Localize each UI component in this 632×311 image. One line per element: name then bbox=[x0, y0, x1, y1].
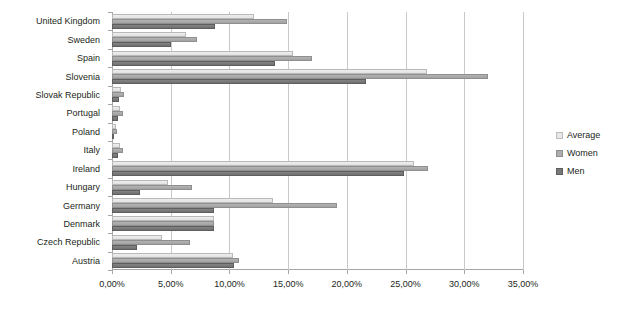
bar-men bbox=[112, 153, 118, 158]
bar-men bbox=[112, 42, 171, 47]
bar-group bbox=[112, 67, 523, 85]
y-axis-category-label: Italy bbox=[83, 145, 100, 155]
y-axis-category-label: Sweden bbox=[67, 35, 100, 45]
bar-men bbox=[112, 97, 119, 102]
x-axis-tick bbox=[464, 270, 465, 274]
bar-group bbox=[112, 178, 523, 196]
bar-men bbox=[112, 245, 137, 250]
x-axis-labels: 0,00%5,00%10,00%15,00%20,00%25,00%30,00%… bbox=[0, 278, 632, 294]
x-axis-tick bbox=[112, 270, 113, 274]
legend-item[interactable]: Women bbox=[556, 144, 630, 162]
bar-men bbox=[112, 263, 234, 268]
legend-item[interactable]: Average bbox=[556, 126, 630, 144]
bar-rows bbox=[112, 12, 523, 270]
y-axis-category-label: Hungary bbox=[66, 182, 100, 192]
bar-group bbox=[112, 104, 523, 122]
x-axis-tick-label: 30,00% bbox=[449, 278, 480, 290]
y-axis-category-label: United Kingdom bbox=[36, 16, 100, 26]
x-axis-tick bbox=[229, 270, 230, 274]
bar-chart: United KingdomSwedenSpainSloveniaSlovak … bbox=[0, 0, 632, 311]
y-axis-category-label: Spain bbox=[77, 53, 100, 63]
bar-men bbox=[112, 171, 404, 176]
bar-group bbox=[112, 12, 523, 30]
x-axis-tick-label: 10,00% bbox=[214, 278, 245, 290]
legend-item[interactable]: Men bbox=[556, 162, 630, 180]
y-axis-labels: United KingdomSwedenSpainSloveniaSlovak … bbox=[0, 12, 106, 270]
plot-area bbox=[112, 12, 523, 270]
legend-label: Men bbox=[567, 166, 585, 176]
bar-group bbox=[112, 233, 523, 251]
bar-group bbox=[112, 86, 523, 104]
x-axis-tick bbox=[523, 270, 524, 274]
y-axis-category-label: Slovenia bbox=[65, 72, 100, 82]
bar-men bbox=[112, 116, 118, 121]
bar-group bbox=[112, 49, 523, 67]
legend-label: Women bbox=[567, 148, 598, 158]
bar-men bbox=[112, 190, 140, 195]
x-axis-tick bbox=[406, 270, 407, 274]
x-axis-tick-label: 5,00% bbox=[158, 278, 184, 290]
bar-men bbox=[112, 208, 214, 213]
bar-group bbox=[112, 159, 523, 177]
y-axis-category-label: Germany bbox=[63, 201, 100, 211]
bar-group bbox=[112, 215, 523, 233]
bar-men bbox=[112, 24, 215, 29]
bar-group bbox=[112, 30, 523, 48]
gridline bbox=[523, 12, 524, 270]
y-axis-category-label: Austria bbox=[72, 256, 100, 266]
y-axis-category-label: Poland bbox=[72, 127, 100, 137]
y-axis-category-label: Ireland bbox=[72, 164, 100, 174]
bar-men bbox=[112, 79, 366, 84]
bar-men bbox=[112, 61, 275, 66]
y-axis-category-label: Slovak Republic bbox=[35, 90, 100, 100]
bar-group bbox=[112, 252, 523, 270]
x-axis-tick-label: 25,00% bbox=[390, 278, 421, 290]
legend-label: Average bbox=[567, 130, 600, 140]
bar-group bbox=[112, 196, 523, 214]
x-axis-tick-label: 20,00% bbox=[332, 278, 363, 290]
bar-men bbox=[112, 226, 214, 231]
legend-swatch-women-icon bbox=[556, 150, 563, 157]
bar-group bbox=[112, 141, 523, 159]
x-axis-tick bbox=[347, 270, 348, 274]
x-axis-tick bbox=[171, 270, 172, 274]
x-axis-tick-label: 0,00% bbox=[99, 278, 125, 290]
bar-men bbox=[112, 134, 114, 139]
y-axis-category-label: Portugal bbox=[66, 108, 100, 118]
legend-swatch-avg-icon bbox=[556, 132, 563, 139]
y-axis-category-label: Czech Republic bbox=[37, 237, 100, 247]
legend-swatch-men-icon bbox=[556, 168, 563, 175]
chart-legend: AverageWomenMen bbox=[556, 126, 630, 180]
x-axis-tick-label: 35,00% bbox=[508, 278, 539, 290]
x-axis-tick bbox=[288, 270, 289, 274]
bar-group bbox=[112, 123, 523, 141]
y-axis-category-label: Denmark bbox=[63, 219, 100, 229]
x-axis-tick-label: 15,00% bbox=[273, 278, 304, 290]
